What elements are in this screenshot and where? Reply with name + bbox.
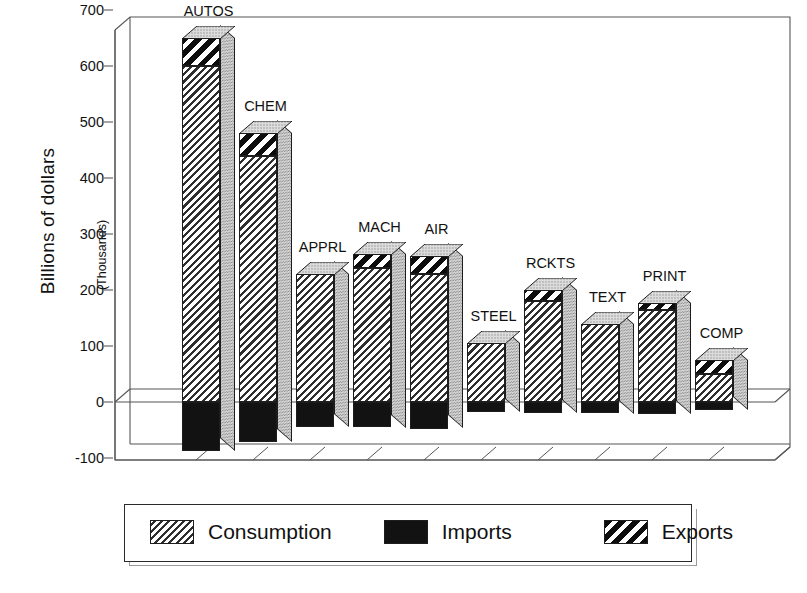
y-tick-mark: [104, 234, 113, 235]
bar-segment-imports: [695, 402, 733, 410]
chart-legend: ConsumptionImportsExports: [124, 504, 690, 560]
bar-comp: COMP: [0, 0, 807, 500]
legend-swatch-imports: [384, 520, 428, 544]
bars-layer: AUTOSCHEMAPPRLMACHAIRSTEELRCKTSTEXTPRINT…: [0, 0, 807, 500]
y-tick-mark: [104, 402, 113, 403]
legend-label: Consumption: [208, 520, 332, 544]
y-tick-mark: [104, 178, 113, 179]
y-tick-mark: [104, 10, 113, 11]
legend-item-exports[interactable]: Exports: [604, 520, 733, 544]
legend-item-consumption[interactable]: Consumption: [150, 520, 332, 544]
legend-item-imports[interactable]: Imports: [384, 520, 512, 544]
y-tick-mark: [104, 122, 113, 123]
legend-items: ConsumptionImportsExports: [124, 504, 690, 560]
legend-swatch-consumption: [150, 520, 194, 544]
bar-top-face: [695, 347, 748, 360]
y-tick-mark: [104, 66, 113, 67]
legend-label: Imports: [442, 520, 512, 544]
bar-segment-exports: [695, 360, 733, 374]
bar-segment-consumption: [695, 374, 733, 402]
y-tick-mark: [104, 458, 113, 459]
legend-label: Exports: [662, 520, 733, 544]
bar-label-comp: COMP: [700, 325, 744, 341]
legend-swatch-exports: [604, 520, 648, 544]
y-tick-mark: [104, 346, 113, 347]
bar-chart: Billions of dollars (Thousands) 70060050…: [0, 0, 807, 593]
y-tick-mark: [104, 290, 113, 291]
